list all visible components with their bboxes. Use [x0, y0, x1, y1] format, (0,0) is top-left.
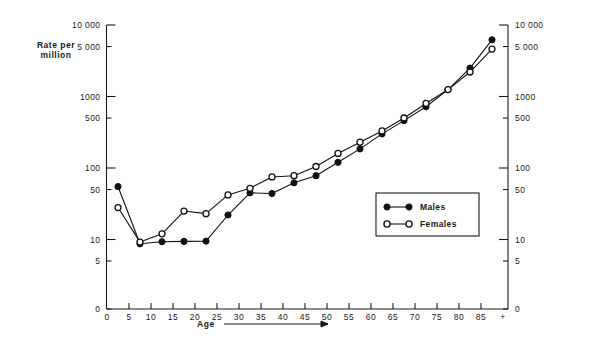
- data-point-males: [181, 238, 187, 244]
- left-tick-label: 500: [85, 113, 100, 123]
- data-point-females: [159, 231, 165, 237]
- data-point-females: [335, 150, 341, 156]
- data-point-females: [225, 192, 231, 198]
- y-axis-title-line1: Rate per: [37, 40, 75, 50]
- x-axis-title: Age: [197, 319, 215, 329]
- x-tick-label: 85: [476, 312, 486, 322]
- data-point-females: [401, 115, 407, 121]
- data-point-females: [423, 100, 429, 106]
- data-point-males: [489, 37, 495, 43]
- x-tick-label: 30: [234, 312, 244, 322]
- data-point-males: [203, 238, 209, 244]
- left-tick-label: 5 000: [77, 42, 100, 52]
- x-tick-label: 75: [432, 312, 442, 322]
- right-tick-label: 100: [515, 163, 530, 173]
- x-axis: 0510152025303540455055606570758085+: [104, 303, 508, 322]
- data-point-males: [159, 239, 165, 245]
- left-tick-label: 10 000: [72, 20, 100, 30]
- data-point-females: [269, 174, 275, 180]
- left-y-axis: 10 0005 0001000500100501050: [72, 20, 115, 314]
- x-tick-label: 40: [278, 312, 288, 322]
- legend-label: Males: [420, 202, 446, 212]
- data-point-females: [467, 69, 473, 75]
- data-point-females: [203, 211, 209, 217]
- x-tick-label: 70: [410, 312, 420, 322]
- data-point-females: [489, 46, 495, 52]
- data-point-females: [357, 139, 363, 145]
- data-point-females: [379, 128, 385, 134]
- right-tick-label: 0: [515, 304, 520, 314]
- right-tick-label: 5: [515, 256, 520, 266]
- x-tick-label: 80: [454, 312, 464, 322]
- data-point-females: [115, 205, 121, 211]
- x-tick-label: 45: [300, 312, 310, 322]
- data-point-males: [335, 159, 341, 165]
- x-tick-label: 60: [366, 312, 376, 322]
- right-tick-label: 50: [515, 185, 525, 195]
- axis-titles: Rate permillionAge: [37, 40, 328, 329]
- legend-label: Females: [420, 219, 457, 229]
- legend-marker: [406, 221, 412, 227]
- data-point-males: [225, 212, 231, 218]
- left-tick-label: 0: [95, 304, 100, 314]
- data-point-females: [181, 208, 187, 214]
- x-tick-label: 15: [168, 312, 178, 322]
- x-tick-label: 65: [388, 312, 398, 322]
- data-point-females: [291, 173, 297, 179]
- x-tick-label: 35: [256, 312, 266, 322]
- x-tick-label: 0: [104, 312, 109, 322]
- right-y-axis: 10 0005 0001000500100501050: [499, 20, 543, 314]
- data-point-females: [313, 163, 319, 169]
- x-tick-label: 55: [344, 312, 354, 322]
- x-tick-label: 5: [126, 312, 131, 322]
- data-point-females: [247, 185, 253, 191]
- data-point-males: [291, 180, 297, 186]
- chart-figure: 10 0005 0001000500100501050 10 0005 0001…: [0, 0, 596, 339]
- data-point-males: [313, 173, 319, 179]
- legend-marker: [384, 221, 390, 227]
- left-tick-label: 5: [95, 256, 100, 266]
- x-tick-label: 10: [146, 312, 156, 322]
- left-tick-label: 10: [90, 235, 100, 245]
- legend-marker: [406, 204, 412, 210]
- right-tick-label: 500: [515, 113, 530, 123]
- right-tick-label: 10 000: [515, 20, 543, 30]
- data-point-males: [357, 146, 363, 152]
- left-tick-label: 100: [85, 163, 100, 173]
- legend-marker: [384, 204, 390, 210]
- x-tick-label: +: [500, 312, 505, 322]
- left-tick-label: 50: [90, 185, 100, 195]
- legend-border: [376, 193, 479, 236]
- data-point-males: [269, 190, 275, 196]
- data-point-females: [445, 87, 451, 93]
- right-tick-label: 5 000: [515, 42, 538, 52]
- right-tick-label: 10: [515, 235, 525, 245]
- data-point-females: [137, 239, 143, 245]
- x-tick-label: 50: [322, 312, 332, 322]
- y-axis-title-line2: million: [41, 50, 72, 60]
- data-point-males: [115, 183, 121, 189]
- right-tick-label: 1000: [515, 92, 536, 102]
- log-line-chart: 10 0005 0001000500100501050 10 0005 0001…: [0, 0, 596, 339]
- chart-legend: MalesFemales: [376, 193, 479, 236]
- left-tick-label: 1000: [80, 92, 101, 102]
